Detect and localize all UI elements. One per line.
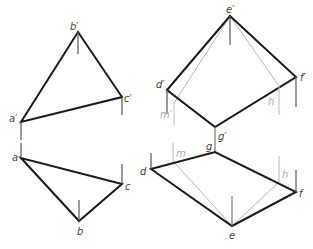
label-f: f [299, 188, 304, 199]
label-h-prime: h′ [268, 96, 277, 107]
projection-drawing: b′ c′ a′ a c b e′ d′ f′ g′ m′ h′ [0, 0, 313, 249]
label-a-prime: a′ [9, 113, 18, 124]
label-m-prime: m′ [160, 109, 173, 120]
label-c-prime: c′ [124, 93, 132, 104]
label-b: b [77, 226, 83, 237]
label-b-prime: b′ [70, 21, 79, 32]
label-d: d [140, 166, 147, 177]
construction-e-m-prime [174, 16, 230, 103]
quadrilateral-front-view: e′ d′ f′ g′ m′ h′ [156, 4, 307, 152]
label-h: h [282, 169, 288, 180]
triangle-front-view: b′ c′ a′ [9, 21, 132, 140]
label-a: a [12, 152, 18, 163]
quad-defg-top [151, 152, 296, 226]
label-c: c [125, 181, 131, 192]
triangle-top-view: a c b [12, 143, 131, 237]
label-e: e [229, 230, 235, 241]
label-f-prime: f′ [300, 72, 307, 83]
label-g-prime: g′ [218, 131, 227, 142]
triangle-abc-front [21, 32, 122, 122]
quadrilateral-top-view: g d f e m h [140, 141, 304, 241]
label-e-prime: e′ [226, 4, 235, 15]
construction-e-h-prime [230, 16, 279, 86]
label-m: m [176, 148, 186, 159]
quad-defg-front [167, 16, 296, 127]
label-d-prime: d′ [156, 79, 165, 90]
construction-e-m [173, 161, 232, 226]
label-g: g [206, 141, 212, 152]
triangle-abc-top [21, 158, 122, 221]
